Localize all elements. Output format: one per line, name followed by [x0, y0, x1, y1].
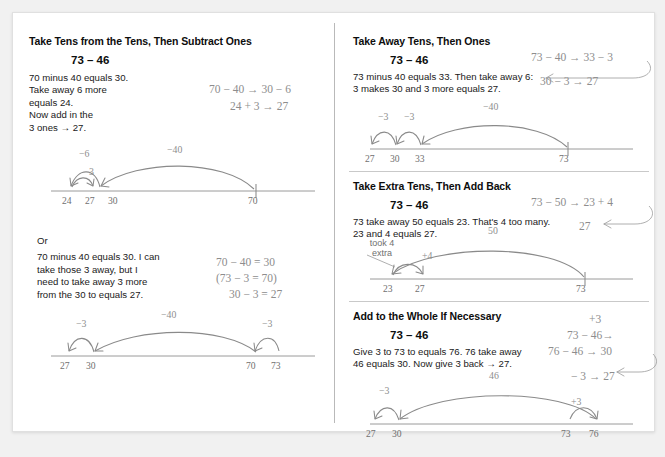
- tick-label-23: 23: [383, 283, 393, 294]
- arc-label-minus3-left: −3: [76, 318, 86, 329]
- tick-label-76: 76: [589, 428, 599, 439]
- loop-arrow-icon-3: [611, 353, 661, 379]
- tick-label-27: 27: [365, 153, 375, 164]
- tick-label-70: 70: [248, 195, 258, 206]
- worksheet-page: Take Tens from the Tens, Then Subtract O…: [0, 0, 665, 457]
- section-separator-1: [349, 171, 649, 172]
- arc-label-plus3: +3: [571, 396, 581, 407]
- equation-line-4: − 3 → 27: [571, 370, 615, 382]
- numberline-2: −3 −40 −3 27 30 70 73: [43, 318, 318, 367]
- arc-label-minus40: −40: [167, 144, 182, 155]
- numberline-3: −3 −3 −40 27 30 33 73: [365, 111, 637, 160]
- arc-label-minus3-right: −3: [262, 318, 272, 329]
- tick-label-73: 73: [559, 153, 569, 164]
- equation-line-3: 30 − 3 = 27: [229, 288, 282, 300]
- arc-label-minus3: −3: [379, 385, 389, 396]
- section-add-to-whole: Add to the Whole If Necessary 73 – 46 Gi…: [353, 310, 593, 371]
- tick-label-27: 27: [60, 360, 70, 371]
- equation-line-2: 27: [579, 220, 591, 232]
- equation-line-2: 73 − 46→: [567, 329, 614, 341]
- numberline-5-graphic: [365, 386, 637, 431]
- tick-label-30: 30: [392, 428, 402, 439]
- tick-label-27: 27: [85, 195, 95, 206]
- tick-label-24: 24: [62, 195, 72, 206]
- tick-label-33: 33: [415, 153, 425, 164]
- worksheet-card: Take Tens from the Tens, Then Subtract O…: [12, 12, 655, 432]
- section-title: Take Extra Tens, Then Add Back: [353, 180, 603, 192]
- or-label: Or: [37, 235, 217, 247]
- took-extra-note: took 4 extra: [357, 239, 407, 258]
- arc-label-minus40: −40: [483, 101, 498, 112]
- loop-arrow-icon-1: [529, 59, 649, 85]
- loop-arrow-icon-2: [591, 204, 651, 230]
- tick-label-30: 30: [390, 153, 400, 164]
- equation-line-1: +3: [589, 313, 601, 325]
- problem-statement: 73 – 46: [71, 54, 252, 66]
- arc-label-minus3-b: −3: [404, 111, 414, 122]
- equation-line-1: 70 − 40 → 30 − 6: [209, 83, 291, 95]
- arc-label-minus40: −40: [161, 309, 176, 320]
- section-title: Take Tens from the Tens, Then Subtract O…: [29, 35, 252, 47]
- tick-label-27: 27: [415, 283, 425, 294]
- equation-line-2: (73 − 3 = 70): [216, 272, 277, 284]
- numberline-4: +4 50 took 4 extra 23 27 73: [365, 241, 637, 290]
- tick-label-30: 30: [86, 360, 96, 371]
- numberline-1: −6 3 −40 24 27 30 70: [43, 153, 318, 202]
- arc-label-3: 3: [89, 166, 94, 177]
- explanation-text: 70 minus 40 equals 30. Take away 6 more …: [29, 72, 204, 134]
- equation-line-2: 24 + 3 → 27: [230, 100, 288, 112]
- arc-label-50: 50: [488, 225, 498, 236]
- numberline-5: −3 46 +3 27 30 73 76: [365, 386, 637, 435]
- section-title: Take Away Tens, Then Ones: [353, 35, 603, 47]
- section-take-extra-tens: Take Extra Tens, Then Add Back 73 – 46 7…: [353, 180, 603, 241]
- equation-line-1: 70 − 40 = 30: [216, 256, 275, 268]
- arc-label-minus6: −6: [79, 148, 89, 159]
- section-separator-2: [349, 301, 649, 302]
- tick-label-30: 30: [108, 195, 118, 206]
- section-or: Or 70 minus 40 equals 30. I can take tho…: [37, 235, 217, 301]
- tick-label-70: 70: [246, 360, 256, 371]
- equation-line-3: 76 − 46 → 30: [548, 345, 612, 357]
- tick-label-27: 27: [366, 428, 376, 439]
- numberline-1-graphic: [43, 153, 318, 198]
- explanation-text: 70 minus 40 equals 30. I can take those …: [37, 251, 217, 301]
- problem-statement: 73 – 46: [390, 329, 593, 341]
- tick-label-73: 73: [271, 360, 281, 371]
- tick-label-73: 73: [561, 428, 571, 439]
- column-divider: [334, 23, 335, 423]
- arc-label-plus4: +4: [422, 250, 432, 261]
- arc-label-minus3-a: −3: [378, 111, 388, 122]
- arc-label-46: 46: [489, 370, 499, 381]
- tick-label-73: 73: [576, 283, 586, 294]
- section-title: Add to the Whole If Necessary: [353, 310, 593, 322]
